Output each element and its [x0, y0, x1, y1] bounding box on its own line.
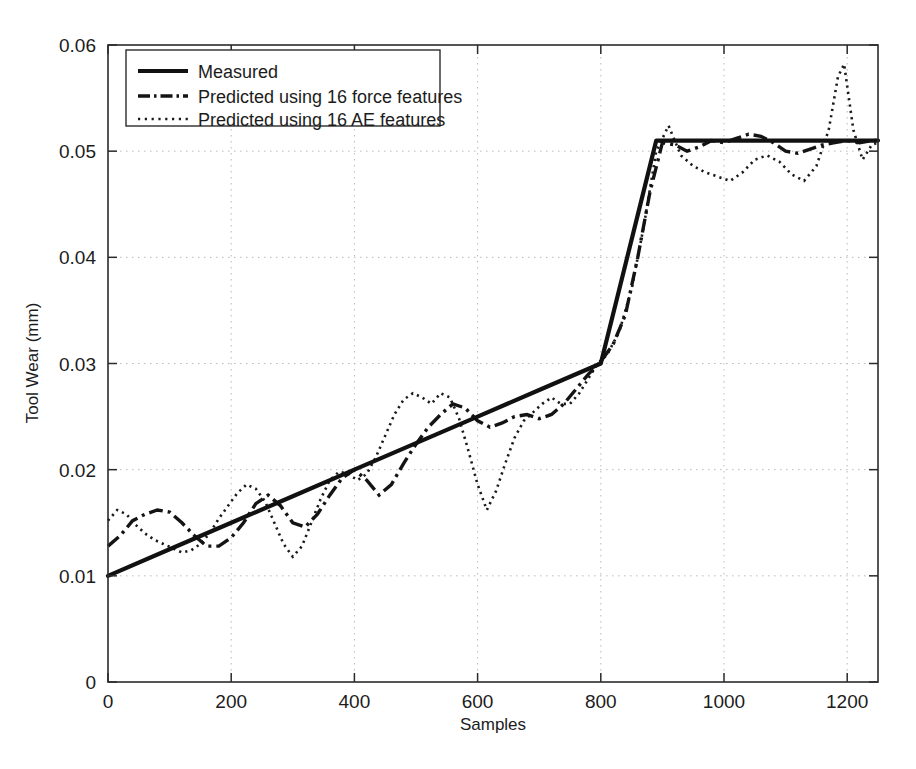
chart-legend: Measured Predicted using 16 force featur…: [126, 50, 462, 130]
y-tick-label: 0.03: [59, 354, 96, 375]
x-axis-title: Samples: [460, 715, 526, 734]
x-tick-label: 200: [215, 691, 247, 712]
x-tick-label: 1200: [826, 691, 868, 712]
y-tick-label: 0.02: [59, 460, 96, 481]
y-axis-title: Tool Wear (mm): [23, 303, 42, 424]
chart-canvas: 020040060080010001200 00.010.020.030.040…: [0, 0, 916, 769]
y-tick-label: 0.01: [59, 566, 96, 587]
x-tick-label: 400: [339, 691, 371, 712]
legend-label-force: Predicted using 16 force features: [198, 87, 462, 107]
x-tick-label: 600: [462, 691, 494, 712]
x-tick-label: 800: [585, 691, 617, 712]
tool-wear-chart-figure: 020040060080010001200 00.010.020.030.040…: [0, 0, 916, 769]
data-series-layer: [108, 64, 878, 576]
x-tick-label: 0: [103, 691, 114, 712]
y-tick-label: 0: [85, 672, 96, 693]
y-gridlines: [108, 151, 878, 576]
series-line-predicted-force: [108, 134, 878, 546]
legend-label-measured: Measured: [198, 62, 278, 82]
legend-label-ae: Predicted using 16 AE features: [198, 110, 445, 130]
y-tick-label: 0.04: [59, 247, 96, 268]
y-tick-label: 0.06: [59, 35, 96, 56]
x-tick-label: 1000: [703, 691, 745, 712]
y-tick-labels: 00.010.020.030.040.050.06: [59, 35, 96, 693]
x-tick-labels: 020040060080010001200: [103, 691, 869, 712]
y-tick-label: 0.05: [59, 141, 96, 162]
